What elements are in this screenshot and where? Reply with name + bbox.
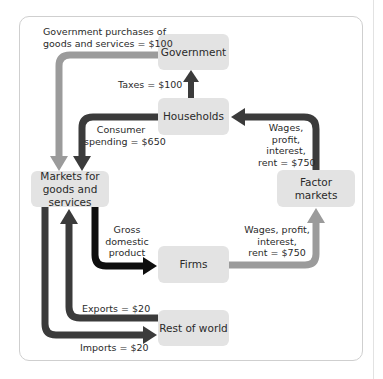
label-wages-to-households: Wages, profit, interest, rent = $750 xyxy=(258,122,314,168)
label-taxes-text: Taxes = $100 xyxy=(118,79,182,90)
label-exports-text: Exports = $20 xyxy=(82,303,150,314)
label-gov-purchases: Government purchases of goods and servic… xyxy=(43,26,155,49)
label-gdp-line3: product xyxy=(104,247,150,259)
node-factor-markets: Factor markets xyxy=(277,170,355,207)
label-gdp: Gross domestic product xyxy=(104,224,150,259)
node-factor-markets-label: Factor markets xyxy=(291,176,341,202)
label-wages-hh-line2: profit, xyxy=(258,134,314,146)
label-exports: Exports = $20 xyxy=(82,303,146,315)
node-firms-label: Firms xyxy=(179,258,207,271)
label-imports: Imports = $20 xyxy=(80,342,144,354)
taxes-arrow xyxy=(183,70,199,98)
gov-purchases-arrow xyxy=(50,55,158,171)
label-wages-firms-line3: rent = $750 xyxy=(240,247,314,259)
label-consumer-spending: Consumer spending = $650 xyxy=(84,124,158,147)
node-rest-of-world-label: Rest of world xyxy=(159,322,228,335)
label-gov-purchases-line2: goods and services = $100 xyxy=(43,38,155,50)
label-gdp-line1: Gross xyxy=(104,224,150,236)
label-taxes: Taxes = $100 xyxy=(118,79,180,91)
node-markets-goods-services: Markets for goods and services xyxy=(31,171,109,207)
node-rest-of-world: Rest of world xyxy=(158,310,229,346)
label-gdp-line2: domestic xyxy=(104,236,150,248)
label-consumer-line2: spending = $650 xyxy=(84,136,158,148)
label-wages-hh-line4: rent = $750 xyxy=(258,157,314,169)
label-imports-text: Imports = $20 xyxy=(80,342,149,353)
label-wages-from-firms: Wages, profit, interest, rent = $750 xyxy=(240,224,314,259)
node-markets-goods-label: Markets for goods and services xyxy=(33,170,107,209)
label-wages-firms-line1: Wages, profit, xyxy=(240,224,314,236)
label-wages-hh-line1: Wages, xyxy=(258,122,314,134)
node-households-label: Households xyxy=(163,110,224,123)
label-wages-hh-line3: interest, xyxy=(258,145,314,157)
node-firms: Firms xyxy=(158,246,229,283)
label-wages-firms-line2: interest, xyxy=(240,236,314,248)
label-gov-purchases-line1: Government purchases of xyxy=(43,26,155,38)
label-consumer-line1: Consumer xyxy=(84,124,158,136)
node-households: Households xyxy=(158,98,229,135)
